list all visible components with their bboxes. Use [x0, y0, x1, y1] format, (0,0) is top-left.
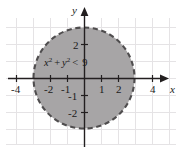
y-tick-label-neg1: -1 [68, 91, 77, 102]
x-axis-label: x [170, 84, 175, 95]
x-tick-label-neg2: -2 [44, 84, 53, 95]
inequality-plus: + [54, 57, 60, 68]
inequality-x-exponent: 2 [49, 56, 53, 64]
inequality-y-exponent: 2 [67, 56, 71, 64]
coordinate-plane-svg [0, 0, 180, 158]
x-tick-label-4: 4 [150, 84, 156, 95]
x-tick-label-neg4: -4 [11, 84, 20, 95]
x-tick-label-1: 1 [99, 84, 105, 95]
inequality-graph-figure: -4 -2 -1 1 2 4 2 -1 -2 y x x2+y2<9 [0, 0, 180, 158]
inequality-value: 9 [82, 57, 87, 68]
y-tick-label-neg2: -2 [68, 108, 77, 119]
y-tick-label-2: 2 [73, 40, 79, 51]
inequality-relation: < [72, 57, 78, 68]
y-axis-label: y [72, 5, 77, 16]
x-tick-label-2: 2 [116, 84, 122, 95]
inequality-annotation: x2+y2<9 [44, 58, 89, 69]
